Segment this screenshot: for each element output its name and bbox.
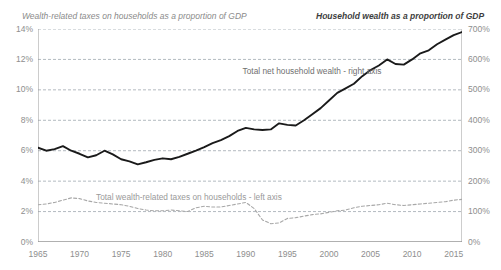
y-axis-right-tick-label: 300% <box>468 145 490 155</box>
y-axis-left-tick-label: 12% <box>3 54 33 64</box>
x-axis-tick-label: 2000 <box>311 249 347 259</box>
x-axis-tick-label: 2010 <box>394 249 430 259</box>
x-axis-tick-label: 1980 <box>145 249 181 259</box>
gridlines <box>38 29 462 242</box>
y-axis-right-tick-label: 600% <box>468 54 490 64</box>
y-axis-left-tick-label: 10% <box>3 84 33 94</box>
x-axis-tick-label: 1985 <box>186 249 222 259</box>
y-axis-left-tick-label: 0% <box>3 237 33 247</box>
y-axis-right-tick-label: 200% <box>468 176 490 186</box>
y-axis-right-tick-label: 700% <box>468 24 490 34</box>
x-axis-tick-label: 1975 <box>103 249 139 259</box>
annotation-wealth-series: Total net household wealth - right axis <box>232 66 392 77</box>
y-axis-right-tick-label: 0% <box>468 237 480 247</box>
plot-area <box>38 29 462 242</box>
x-axis-tick-label: 1990 <box>228 249 264 259</box>
annotation-tax-series: Total wealth-related taxes on households… <box>96 192 282 202</box>
y-axis-left-tick-label: 2% <box>3 206 33 216</box>
x-axis-tick-label: 1970 <box>62 249 98 259</box>
left-axis-title: Wealth-related taxes on households as a … <box>22 11 247 21</box>
y-axis-left-tick-label: 8% <box>3 115 33 125</box>
y-axis-right-tick-label: 500% <box>468 84 490 94</box>
x-axis-tick-label: 2015 <box>436 249 472 259</box>
x-axis-tick-label: 1995 <box>269 249 305 259</box>
x-axis-tick-label: 2005 <box>353 249 389 259</box>
wealth-series-line <box>38 32 462 164</box>
x-axis-tick-label: 1965 <box>20 249 56 259</box>
y-axis-left-tick-label: 4% <box>3 176 33 186</box>
chart-container: Wealth-related taxes on households as a … <box>0 0 501 270</box>
y-axis-left-tick-label: 14% <box>3 24 33 34</box>
axis-lines <box>38 29 462 242</box>
y-axis-right-tick-label: 400% <box>468 115 490 125</box>
right-axis-title: Household wealth as a proportion of GDP <box>316 11 484 21</box>
y-axis-left-tick-label: 6% <box>3 145 33 155</box>
chart-svg <box>38 29 462 242</box>
y-axis-right-tick-label: 100% <box>468 206 490 216</box>
